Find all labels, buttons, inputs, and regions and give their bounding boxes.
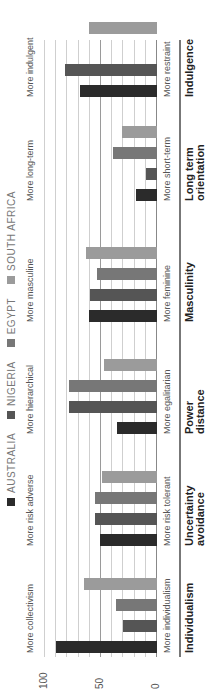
low-pole-label: More feminine <box>162 265 172 322</box>
bar <box>69 380 157 392</box>
legend-label-australia: AUSTRALIA <box>6 433 17 493</box>
legend-swatch-south-africa <box>7 276 15 284</box>
high-pole-label: More risk adverse <box>25 474 35 546</box>
bar <box>86 247 157 259</box>
bar <box>65 64 157 76</box>
bar-group: More long-termMore short-term <box>44 115 157 205</box>
y-tick-label: 0 <box>150 683 161 689</box>
bar <box>100 534 157 546</box>
bar-group: More risk adverseMore risk tolerant <box>44 460 157 550</box>
bar <box>95 492 157 504</box>
bar <box>80 85 157 97</box>
legend-item-australia: AUSTRALIA <box>4 433 18 506</box>
legend-swatch-nigeria <box>7 411 15 419</box>
legend-label-south-africa: SOUTH AFRICA <box>6 191 17 271</box>
bar <box>117 422 157 434</box>
category-label: Long term orientation <box>184 121 206 201</box>
legend-item-nigeria: NIGERIA <box>4 361 18 419</box>
bar <box>113 147 157 159</box>
legend-swatch-egypt <box>7 339 15 347</box>
bar <box>84 578 157 590</box>
bar <box>56 641 157 653</box>
bar <box>90 289 157 301</box>
bar-group: More masculineMore feminine <box>44 236 157 326</box>
bar <box>102 471 157 483</box>
legend-label-nigeria: NIGERIA <box>6 361 17 406</box>
category-label: Indulgence <box>184 17 195 97</box>
bar <box>123 620 157 632</box>
category-divider <box>179 40 181 657</box>
low-pole-label: More short-term <box>162 137 172 201</box>
high-pole-label: More long-term <box>25 140 35 201</box>
category-label: Masculinity <box>184 242 195 322</box>
low-pole-label: More egalitarian <box>162 369 172 434</box>
bar <box>89 22 157 34</box>
bar <box>136 189 157 201</box>
legend-label-egypt: EGYPT <box>6 298 17 334</box>
bar <box>104 359 157 371</box>
chart-stage: AUSTRALIA NIGERIA EGYPT SOUTH AFRICA Mor… <box>0 0 222 697</box>
legend-item-egypt: EGYPT <box>4 298 18 347</box>
legend-item-south-africa: SOUTH AFRICA <box>4 191 18 284</box>
high-pole-label: More collectivism <box>25 584 35 653</box>
category-label: Uncertainty avoidance <box>184 466 206 546</box>
bar-group: More hierarchicalMore egalitarian <box>44 348 157 438</box>
bar <box>89 310 157 322</box>
high-pole-label: More masculine <box>25 258 35 322</box>
y-tick-label: 50 <box>94 678 105 689</box>
low-pole-label: More individualism <box>162 578 172 653</box>
y-tick-label: 100 <box>38 672 49 689</box>
legend-swatch-australia <box>7 498 15 506</box>
bar <box>97 268 157 280</box>
low-pole-label: More risk tolerant <box>162 476 172 546</box>
bar <box>146 168 157 180</box>
high-pole-label: More indulgent <box>25 37 35 97</box>
plot-area: More collectivismMore individualismMore … <box>44 40 157 657</box>
category-label: Power distance <box>184 354 206 434</box>
low-pole-label: More restraint <box>162 41 172 97</box>
high-pole-label: More hierarchical <box>25 365 35 434</box>
legend: AUSTRALIA NIGERIA EGYPT SOUTH AFRICA <box>4 0 18 697</box>
bar-group: More collectivismMore individualism <box>44 567 157 657</box>
bar <box>116 599 157 611</box>
bar-group: More indulgentMore restraint <box>44 11 157 101</box>
category-label: Individualism <box>184 573 195 653</box>
bar <box>95 513 157 525</box>
bar <box>69 401 157 413</box>
bar <box>122 126 157 138</box>
